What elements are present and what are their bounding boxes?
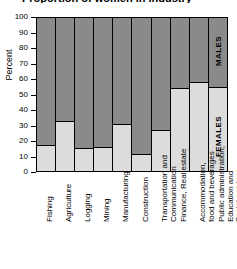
x-axis-label-text: Agriculture: [65, 130, 74, 222]
y-axis-tick-label: 100: [2, 13, 28, 21]
bar-segment-males: [171, 18, 189, 88]
x-axis-label-5: Manufacturing: [113, 174, 132, 269]
stacked-bar-chart: Proportion of women in industry 01020304…: [0, 0, 237, 269]
y-axis-tick-label: 30: [2, 122, 28, 130]
x-axis-label-text: Logging: [84, 130, 93, 222]
x-axis-label-3: Logging: [74, 174, 93, 269]
y-axis-tick: [31, 172, 36, 173]
bar-segment-males: [113, 18, 131, 124]
x-axis-label-text: Public administration,Education andSocia…: [218, 130, 237, 222]
x-axis-label-text: Fishing: [46, 130, 55, 222]
x-axis-label-6: Construction: [132, 174, 151, 269]
x-axis-label-text: Construction: [142, 130, 151, 222]
y-axis-tick-label: 10: [2, 153, 28, 161]
x-axis-label-8: Finance, Real estate: [170, 174, 189, 269]
x-axis-label-7: Transportation andCommunication: [151, 174, 170, 269]
x-axis-label-text: Mining: [103, 130, 112, 222]
bar-segment-males: [56, 18, 74, 121]
y-axis-label: Percent: [4, 30, 14, 100]
x-axis-label-2: Agriculture: [55, 174, 74, 269]
x-axis-label-text: Manufacturing: [122, 130, 131, 222]
chart-title-text: Proportion of women in industry: [22, 0, 222, 3]
legend-label-males: MALES: [209, 18, 227, 84]
bar-segment-males: [37, 18, 55, 145]
bar-segment-males: [152, 18, 170, 130]
x-axis-label-text: Finance, Real estate: [180, 130, 189, 222]
x-axis-labels: FishingAgricultureLoggingMiningManufactu…: [36, 174, 228, 269]
bar-segment-males: MALES: [209, 18, 227, 87]
x-axis-label-9: Accommodation,food and beverages: [190, 174, 209, 269]
x-axis-label-10: Public administration,Education andSocia…: [209, 174, 228, 269]
bar-segment-males: [94, 18, 112, 147]
bar-segment-males: [190, 18, 208, 82]
x-axis-label-1: Fishing: [36, 174, 55, 269]
chart-title-clipped: Proportion of women in industry: [22, 0, 222, 3]
bar-segment-males: [75, 18, 93, 148]
y-axis-tick-label: 40: [2, 106, 28, 114]
y-axis-tick-label: 20: [2, 137, 28, 145]
x-axis-label-4: Mining: [94, 174, 113, 269]
y-axis-tick-label: 0: [2, 168, 28, 176]
